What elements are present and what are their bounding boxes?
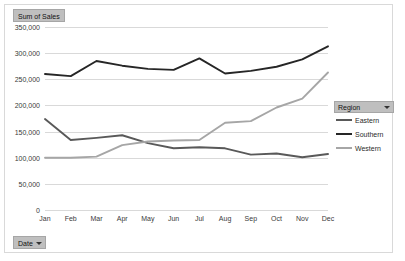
pivot-chart: Sum of Sales Date 050,000100,000150,0002… — [0, 0, 405, 261]
y-axis-tick-label: 50,000 — [19, 180, 40, 187]
y-axis-tick-label: 200,000 — [15, 102, 40, 109]
x-axis-tick-label: Sep — [245, 215, 257, 222]
y-axis-tick-label: 300,000 — [15, 50, 40, 57]
x-axis-tick-label: Nov — [296, 215, 308, 222]
y-axis-tick-label: 0 — [36, 207, 40, 214]
legend-entry-western: Western — [334, 141, 394, 155]
legend-entry-southern: Southern — [334, 127, 394, 141]
legend-label: Eastern — [355, 117, 379, 124]
x-axis-tick-label: Dec — [322, 215, 334, 222]
chevron-down-icon — [36, 242, 42, 245]
axis-field-label: Date — [18, 238, 33, 249]
legend-field-button[interactable]: Region — [334, 101, 394, 113]
legend-label: Western — [355, 145, 381, 152]
legend-swatch — [336, 147, 352, 149]
y-axis-tick-label: 150,000 — [15, 128, 40, 135]
legend-field-label: Region — [338, 104, 360, 111]
legend: Region EasternSouthernWestern — [334, 101, 394, 155]
legend-swatch — [336, 133, 352, 135]
legend-label: Southern — [355, 131, 383, 138]
x-axis-tick-label: Aug — [219, 215, 231, 222]
x-axis-tick-label: May — [141, 215, 154, 222]
legend-entries: EasternSouthernWestern — [334, 113, 394, 155]
series-lines — [45, 27, 328, 210]
axis-field-button[interactable]: Date — [13, 236, 46, 249]
x-axis-tick-label: Mar — [90, 215, 102, 222]
y-axis-tick-label: 100,000 — [15, 154, 40, 161]
x-axis-tick-label: Oct — [271, 215, 282, 222]
gridline — [45, 210, 328, 211]
series-line-eastern — [45, 119, 328, 157]
x-axis-tick-label: Feb — [65, 215, 77, 222]
series-line-southern — [45, 46, 328, 76]
y-axis-tick-label: 350,000 — [15, 24, 40, 31]
value-field-label: Sum of Sales — [18, 11, 60, 22]
x-axis-tick-label: Jun — [168, 215, 179, 222]
value-field-button[interactable]: Sum of Sales — [13, 9, 65, 22]
x-axis-tick-label: Jan — [39, 215, 50, 222]
chevron-down-icon — [384, 106, 390, 109]
y-axis-tick-label: 250,000 — [15, 76, 40, 83]
legend-entry-eastern: Eastern — [334, 113, 394, 127]
x-axis-tick-label: Apr — [117, 215, 128, 222]
x-axis-tick-label: Jul — [195, 215, 204, 222]
plot-area: 050,000100,000150,000200,000250,000300,0… — [45, 27, 328, 210]
series-line-western — [45, 72, 328, 157]
legend-swatch — [336, 119, 352, 121]
